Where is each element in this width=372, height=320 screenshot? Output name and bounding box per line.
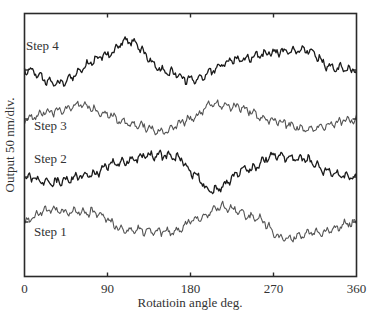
trace-step-3	[25, 100, 357, 135]
x-tick-label: 180	[181, 281, 201, 296]
label-step-1: Step 1	[34, 224, 67, 239]
x-tick-label: 0	[21, 281, 28, 296]
x-tick-label: 270	[264, 281, 284, 296]
trace-step-2	[25, 150, 357, 193]
trace-group	[25, 37, 357, 242]
x-tick-label: 360	[347, 281, 367, 296]
y-axis-ticks	[25, 70, 357, 222]
line-chart: 090180270360 Step 4Step 3Step 2Step 1 Ro…	[0, 0, 372, 320]
label-step-2: Step 2	[34, 151, 67, 166]
label-step-3: Step 3	[34, 118, 67, 133]
y-axis-title: Output 50 nm/div.	[2, 98, 17, 193]
x-axis-ticks: 090180270360	[21, 14, 366, 297]
x-axis-title: Rotatioin angle deg.	[137, 295, 242, 310]
trace-step-4	[25, 37, 357, 86]
label-step-4: Step 4	[26, 38, 59, 53]
x-tick-label: 90	[101, 281, 114, 296]
trace-step-1	[25, 201, 357, 242]
